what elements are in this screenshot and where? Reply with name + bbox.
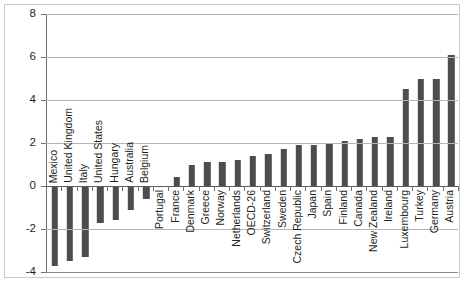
gridline-6	[46, 57, 458, 58]
y-tick-label-4: 4	[6, 94, 36, 106]
category-label: Finland	[338, 190, 349, 224]
y-tick-mark-8	[41, 14, 46, 15]
y-tick-label-6: 6	[6, 51, 36, 63]
category-label: OECD-26	[246, 190, 257, 236]
category-label: Norway	[215, 190, 226, 226]
y-tick-mark-2	[41, 143, 46, 144]
x-tick-mark	[138, 186, 139, 191]
bar	[311, 145, 317, 186]
bar	[280, 149, 286, 186]
y-tick-label-2: 2	[6, 137, 36, 149]
x-tick-mark	[107, 186, 108, 191]
bar	[173, 177, 179, 186]
category-label: Japan	[307, 190, 318, 219]
x-tick-mark	[77, 186, 78, 191]
bar	[296, 145, 302, 186]
category-label: Czech Republic	[292, 190, 303, 264]
category-label: Sweden	[277, 190, 288, 228]
category-label: Belgium	[139, 145, 150, 183]
bar	[341, 141, 347, 186]
bar	[128, 186, 134, 210]
x-tick-mark	[458, 186, 459, 191]
bar	[402, 89, 408, 186]
bar	[67, 186, 73, 261]
y-tick-mark-6	[41, 57, 46, 58]
category-label: Netherlands	[231, 190, 242, 247]
bar	[235, 160, 241, 186]
x-tick-mark	[92, 186, 93, 191]
bar	[418, 79, 424, 187]
category-label: France	[170, 190, 181, 223]
y-tick-label--2: -2	[6, 223, 36, 235]
category-label: Switzerland	[261, 190, 272, 244]
y-tick-mark--4	[41, 272, 46, 273]
bar	[51, 186, 57, 266]
bar	[357, 139, 363, 186]
bar	[112, 186, 118, 220]
category-label: Canada	[353, 190, 364, 227]
category-label: Ireland	[383, 190, 394, 222]
category-label: New Zealand	[368, 190, 379, 252]
category-label: Luxembourg	[399, 190, 410, 248]
category-label: Italy	[78, 164, 89, 183]
category-label: Portugal	[154, 190, 165, 229]
category-label: Mexico	[48, 150, 59, 183]
category-label: United Kingdom	[63, 108, 74, 183]
category-label: Australia	[124, 142, 135, 183]
category-label: Austria	[444, 190, 455, 223]
bar	[326, 143, 332, 186]
bar	[265, 154, 271, 186]
gridline--4	[46, 272, 458, 273]
category-label: Germany	[429, 190, 440, 233]
category-label: Hungary	[109, 143, 120, 183]
bar	[250, 156, 256, 186]
y-tick-mark-0	[41, 186, 46, 187]
gridline-4	[46, 100, 458, 101]
bar	[189, 165, 195, 187]
x-tick-mark	[122, 186, 123, 191]
y-tick-label--4: -4	[6, 266, 36, 278]
bar	[448, 55, 454, 186]
category-label: United States	[93, 120, 104, 183]
y-tick-label-8: 8	[6, 8, 36, 20]
bar	[433, 79, 439, 187]
bar	[82, 186, 88, 257]
y-tick-mark-4	[41, 100, 46, 101]
gridline-8	[46, 14, 458, 15]
y-tick-label-0: 0	[6, 180, 36, 192]
bar	[143, 186, 149, 199]
bar	[97, 186, 103, 223]
bar	[219, 162, 225, 186]
category-label: Denmark	[185, 190, 196, 233]
category-label: Spain	[322, 190, 333, 217]
bar-chart: -4-202468 MexicoUnited KingdomItalyUnite…	[0, 0, 465, 289]
y-tick-mark--2	[41, 229, 46, 230]
category-label: Greece	[200, 190, 211, 224]
bar	[204, 162, 210, 186]
x-tick-mark	[61, 186, 62, 191]
category-label: Turkey	[414, 190, 425, 222]
